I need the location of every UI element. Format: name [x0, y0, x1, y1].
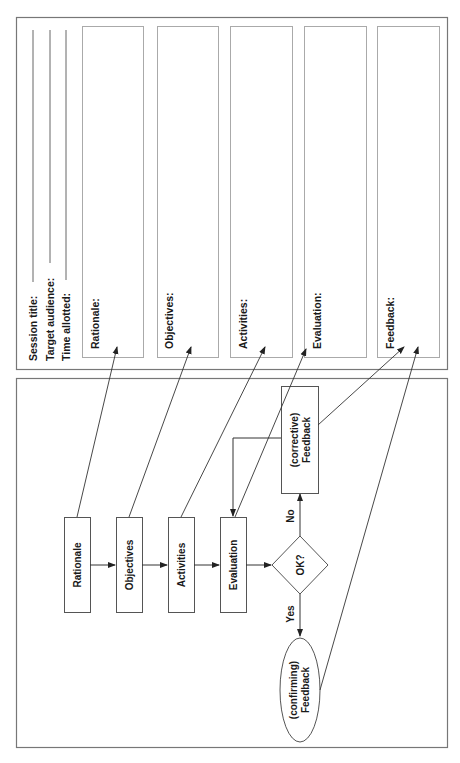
- activities-step-label: Activities: [176, 542, 187, 587]
- feedback-section-label: Feedback:: [384, 297, 396, 349]
- corrective-feedback-line2: Feedback: [301, 416, 312, 463]
- confirming-feedback-line1: (confirming): [288, 661, 299, 719]
- objectives-step-label: Objectives: [124, 539, 135, 590]
- rationale-section-label: Rationale:: [89, 298, 101, 349]
- time-allotted-label: Time allotted:: [60, 293, 72, 361]
- flowchart-panel: Rationale Objectives Activities Evaluati…: [17, 379, 448, 748]
- objectives-section-label: Objectives:: [163, 292, 175, 349]
- corrective-feedback-line1: (corrective): [289, 413, 300, 467]
- confirming-feedback-line2: Feedback: [300, 666, 311, 713]
- target-audience-label: Target audience:: [44, 278, 56, 361]
- activities-section-label: Activities:: [237, 299, 249, 349]
- lesson-plan-diagram: Session title: Target audience: Time all…: [0, 0, 460, 763]
- yes-label: Yes: [285, 605, 296, 623]
- rationale-step-label: Rationale: [72, 542, 83, 587]
- session-title-label: Session title:: [27, 296, 39, 361]
- corrective-feedback-box: [282, 387, 319, 494]
- evaluation-step-label: Evaluation: [228, 540, 239, 591]
- ok-decision-label: OK?: [295, 554, 306, 575]
- planning-form-panel: Session title: Target audience: Time all…: [17, 18, 448, 370]
- no-label: No: [285, 509, 296, 522]
- evaluation-section-label: Evaluation:: [311, 292, 323, 349]
